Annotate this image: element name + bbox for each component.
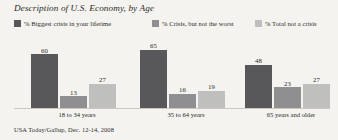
bar-value: 19 — [198, 83, 225, 90]
bar-rect — [60, 96, 87, 108]
bar-rect — [245, 65, 272, 108]
bar-rect — [89, 84, 116, 108]
bar-rect — [303, 84, 330, 108]
legend-swatch-not-a-crisis — [255, 20, 262, 27]
bar-group-18-to-34: 60 13 27 — [31, 36, 123, 108]
bar-rect — [169, 94, 196, 108]
category-label-35-to-64: 35 to 64 years — [140, 111, 232, 118]
bar-value: 13 — [60, 89, 87, 96]
bar-value: 16 — [169, 86, 196, 93]
bar-value: 60 — [31, 47, 58, 54]
category-axis-labels: 18 to 34 years 35 to 64 years 65 years a… — [14, 111, 330, 121]
bar-rect — [140, 50, 167, 109]
bar-group-35-to-64: 65 16 19 — [140, 36, 232, 108]
bar-value: 27 — [303, 76, 330, 83]
category-label-65-and-older: 65 years and older — [245, 111, 337, 118]
legend-label-biggest-crisis: % Biggest crisis in your lifetime — [24, 20, 111, 27]
chart-title: Description of U.S. Economy, by Age — [14, 3, 154, 13]
bar-rect — [274, 87, 301, 108]
chart-figure: Description of U.S. Economy, by Age % Bi… — [0, 0, 338, 140]
chart-source-note: USA Today/Gallup, Dec. 12-14, 2008 — [14, 126, 114, 133]
legend-label-not-a-crisis: % Total not a crisis — [265, 20, 317, 27]
axis-baseline — [14, 108, 330, 109]
bar-rect — [31, 54, 58, 108]
bar-value: 23 — [274, 80, 301, 87]
bar-group-65-and-older: 48 23 27 — [245, 36, 337, 108]
plot-area: 60 13 27 65 16 19 — [14, 36, 330, 109]
legend-label-crisis-not-worst: % Crisis, but not the worst — [162, 20, 234, 27]
bar-value: 27 — [89, 76, 116, 83]
legend-swatch-biggest-crisis — [14, 20, 21, 27]
legend-item-biggest-crisis: % Biggest crisis in your lifetime — [14, 18, 111, 29]
chart-legend: % Biggest crisis in your lifetime % Cris… — [14, 18, 330, 29]
legend-item-not-a-crisis: % Total not a crisis — [255, 18, 317, 29]
legend-swatch-crisis-not-worst — [152, 20, 159, 27]
legend-item-crisis-not-worst: % Crisis, but not the worst — [152, 18, 234, 29]
bar-rect — [198, 91, 225, 108]
bar-value: 48 — [245, 57, 272, 64]
bar-value: 65 — [140, 42, 167, 49]
category-label-18-to-34: 18 to 34 years — [31, 111, 123, 118]
